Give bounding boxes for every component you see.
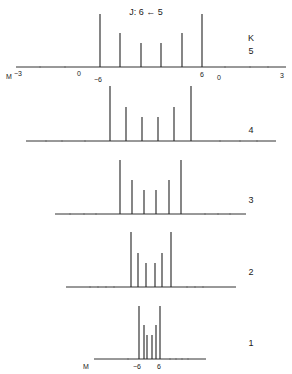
tick-label-left-zero: 0 bbox=[77, 70, 81, 77]
tick-label-right-zero: 0 bbox=[217, 74, 221, 81]
k-value-label: 4 bbox=[248, 125, 253, 135]
axis-m-label-top: M bbox=[6, 73, 12, 80]
k-value-label: 2 bbox=[248, 267, 253, 277]
tick-label-minus6-bottom: −6 bbox=[133, 363, 141, 370]
spectrum-panel-k2: 2 bbox=[66, 232, 254, 288]
k-header-label: K bbox=[248, 33, 254, 43]
spectrum-panel-k4: 4 bbox=[26, 86, 276, 142]
spectrum-panel-k3: 3 bbox=[55, 160, 254, 215]
axis-m-label-bottom: M bbox=[83, 363, 89, 370]
k-value-label: 5 bbox=[248, 46, 253, 56]
figure-title: J: 6 ← 5 bbox=[129, 7, 163, 17]
spectrum-panel-k1: 1 bbox=[94, 306, 254, 360]
tick-label-six-bottom: 6 bbox=[157, 363, 161, 370]
k-value-label: 1 bbox=[248, 338, 253, 348]
tick-label-six-top: 6 bbox=[200, 71, 204, 78]
tick-label-left-minus3: −3 bbox=[14, 70, 22, 77]
k-value-label: 3 bbox=[248, 195, 253, 205]
tick-label-right-three: 3 bbox=[280, 72, 284, 79]
spectrum-panel-k5: 5 bbox=[16, 14, 286, 68]
tick-label-minus6-top: −6 bbox=[94, 76, 102, 83]
spectrum-figure: J: 6 ← 5 K M −3 0 −6 6 0 3 M −6 6 54321 bbox=[0, 0, 292, 374]
spectrum-panels: 54321 bbox=[16, 14, 286, 360]
